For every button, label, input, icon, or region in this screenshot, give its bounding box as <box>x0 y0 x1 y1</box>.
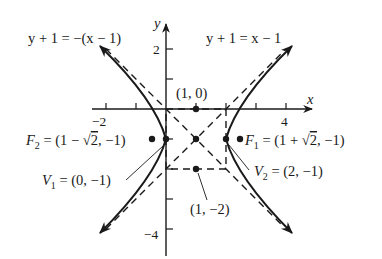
x-tick-label-4: 4 <box>281 114 288 129</box>
point-bottom-label: (1, −2) <box>190 201 230 218</box>
vertex-1-label: V1 = (0, −1) <box>42 172 111 191</box>
vertex-2-point <box>223 136 229 142</box>
focus-1-label: F1 = (1 + √2, −1) <box>244 132 345 151</box>
focus-2-label: F2 = (1 − √2, −1) <box>25 132 126 151</box>
vertex-1-point <box>163 136 169 142</box>
point-bottom <box>193 166 199 172</box>
vertex-2-leader <box>229 145 249 170</box>
point-top <box>193 106 199 112</box>
asymptote-negative-label: y + 1 = −(x − 1) <box>28 30 121 47</box>
y-tick-label-2: 2 <box>153 42 160 57</box>
point-center <box>193 136 199 142</box>
focus-1-point <box>237 136 243 142</box>
graph-canvas: x y −2 4 2 −4 y + 1 = −(x − 1) y + 1 = x… <box>0 0 382 259</box>
y-axis-label: y <box>152 15 161 31</box>
x-tick-label-neg2: −2 <box>92 114 106 129</box>
vertex-2-label: V2 = (2, −1) <box>254 163 323 182</box>
vertex-1-leader <box>126 146 163 180</box>
bottom-point-leader <box>198 173 207 200</box>
x-axis-label: x <box>306 91 314 107</box>
hyperbola-figure: x y −2 4 2 −4 y + 1 = −(x − 1) y + 1 = x… <box>0 0 382 259</box>
y-tick-label-neg4: −4 <box>144 227 159 242</box>
focus-2-point <box>149 136 155 142</box>
point-top-label: (1, 0) <box>176 85 208 102</box>
asymptote-positive-label: y + 1 = x − 1 <box>206 30 281 46</box>
